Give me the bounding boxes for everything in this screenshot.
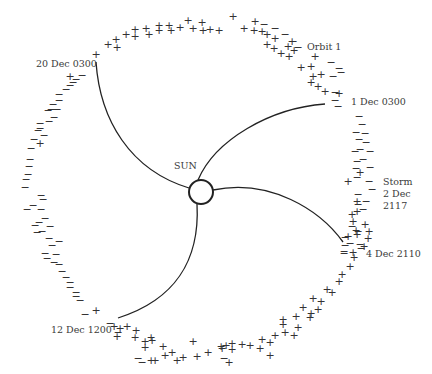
sector-diagram: ++++++++++++++++++++++++++++++++++++++++… [0, 0, 432, 374]
plus-marker: + [192, 350, 201, 363]
orbit-label: Orbit 1 [307, 41, 341, 52]
plus-marker: + [205, 23, 214, 36]
minus-marker: − [336, 66, 345, 79]
time-label-1dec: 1 Dec 0300 [351, 96, 406, 107]
plus-marker: + [91, 304, 100, 317]
plus-marker: + [280, 326, 289, 339]
plus-marker: + [327, 286, 336, 299]
storm-label: Storm 2 Dec 2117 [383, 176, 413, 212]
sun-circle [189, 180, 213, 204]
time-label-4dec: 4 Dec 2110 [366, 248, 421, 259]
minus-marker: − [22, 203, 31, 216]
plus-marker: + [130, 331, 139, 344]
plus-marker: + [245, 339, 254, 352]
minus-marker: − [259, 18, 268, 31]
plus-marker: + [265, 349, 274, 362]
plus-marker: + [227, 337, 236, 350]
plus-marker: + [265, 336, 274, 349]
minus-marker: − [326, 56, 335, 69]
field-line-4dec [213, 187, 343, 242]
minus-marker: − [270, 22, 279, 35]
plus-marker: + [305, 311, 314, 324]
minus-marker: − [328, 70, 337, 83]
minus-marker: − [44, 115, 53, 128]
plus-marker: + [188, 22, 197, 35]
minus-marker: − [365, 161, 374, 174]
plus-marker: + [345, 260, 354, 273]
plus-marker: + [158, 340, 167, 353]
minus-marker: − [293, 41, 302, 54]
plus-marker: + [146, 354, 155, 367]
plus-marker: + [166, 24, 175, 37]
plus-marker: + [214, 24, 223, 37]
time-label-12dec: 12 Dec 1200 [51, 324, 112, 335]
plus-marker: + [144, 28, 153, 41]
minus-marker: − [113, 326, 122, 339]
plus-marker: + [121, 28, 130, 41]
plus-marker: + [278, 313, 287, 326]
minus-marker: − [352, 171, 361, 184]
minus-marker: − [353, 225, 362, 238]
minus-marker: − [75, 294, 84, 307]
sun-label: SUN [174, 160, 197, 171]
minus-marker: − [339, 247, 348, 260]
plus-marker: + [111, 33, 120, 46]
plus-marker: + [130, 23, 139, 36]
plus-marker: + [203, 346, 212, 359]
plus-marker: + [289, 329, 298, 342]
field-line-1dec [198, 104, 325, 180]
minus-marker: − [80, 308, 89, 321]
plus-marker: + [228, 10, 237, 23]
time-label-20dec: 20 Dec 0300 [36, 58, 97, 69]
plus-marker: + [255, 342, 264, 355]
minus-marker: − [333, 100, 342, 113]
minus-marker: − [39, 129, 48, 142]
minus-marker: − [358, 203, 367, 216]
plus-marker: + [154, 24, 163, 37]
diagram-canvas: ++++++++++++++++++++++++++++++++++++++++… [0, 0, 432, 374]
field-line-12dec [118, 204, 197, 318]
minus-marker: − [20, 181, 29, 194]
minus-marker: − [340, 231, 349, 244]
plus-marker: + [167, 346, 176, 359]
minus-marker: − [356, 242, 365, 255]
plus-marker: + [296, 61, 305, 74]
plus-marker: + [188, 335, 197, 348]
plus-marker: + [343, 175, 352, 188]
plus-marker: + [239, 22, 248, 35]
plus-marker: + [320, 85, 329, 98]
minus-marker: − [137, 356, 146, 369]
minus-marker: − [219, 352, 228, 365]
